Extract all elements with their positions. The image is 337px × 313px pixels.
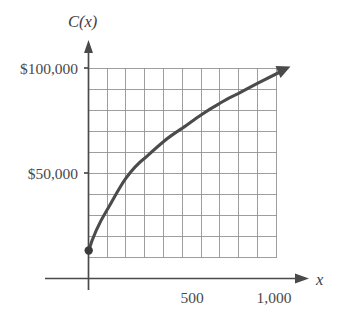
cost-function-figure: C(x) x $100,000 $50,000 500 1,000 bbox=[0, 0, 337, 313]
x-axis-arrow-icon bbox=[295, 274, 309, 284]
cost-curve-group bbox=[85, 66, 291, 255]
gridlines bbox=[89, 68, 277, 257]
y-tick-label-100000: $100,000 bbox=[20, 60, 78, 77]
x-axis-label: x bbox=[315, 270, 324, 289]
x-tick-label-500: 500 bbox=[180, 289, 204, 306]
y-axis-arrow-icon bbox=[84, 40, 93, 53]
curve-start-point bbox=[85, 246, 93, 254]
graph-canvas: C(x) x $100,000 $50,000 500 1,000 bbox=[0, 0, 337, 313]
y-tick-label-50000: $50,000 bbox=[28, 165, 79, 182]
x-tick-label-1000: 1,000 bbox=[257, 289, 292, 306]
y-axis-label: C(x) bbox=[68, 12, 97, 31]
cost-curve bbox=[89, 73, 279, 251]
